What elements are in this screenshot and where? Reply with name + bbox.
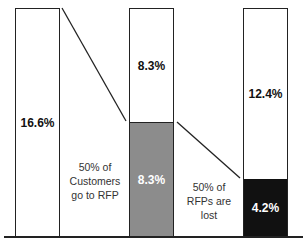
annotation-customers-to-rfp: 50% of Customers go to RFP xyxy=(62,160,128,202)
bar-rfp-top-label: 8.3% xyxy=(138,59,165,73)
bar-rfp-bottom-segment: 8.3% xyxy=(130,122,173,236)
bar-outcome-top-segment: 12.4% xyxy=(244,9,287,179)
bar-outcome-bottom-segment: 4.2% xyxy=(244,179,287,236)
bar-rfp: 8.3% 8.3% xyxy=(129,8,174,237)
bar-outcome-top-label: 12.4% xyxy=(248,87,282,101)
bar-rfp-bottom-label: 8.3% xyxy=(138,173,165,187)
annotation-rfps-lost: 50% of RFPs are lost xyxy=(176,180,242,222)
bar-outcome: 12.4% 4.2% xyxy=(243,8,288,237)
x-axis-baseline xyxy=(4,236,303,238)
bar-rfp-top-segment: 8.3% xyxy=(130,9,173,122)
bar-customers: 16.6% xyxy=(15,8,60,237)
bar-customers-segment: 16.6% xyxy=(16,9,59,236)
bar-outcome-bottom-label: 4.2% xyxy=(252,201,279,215)
bar-customers-label: 16.6% xyxy=(20,116,54,130)
